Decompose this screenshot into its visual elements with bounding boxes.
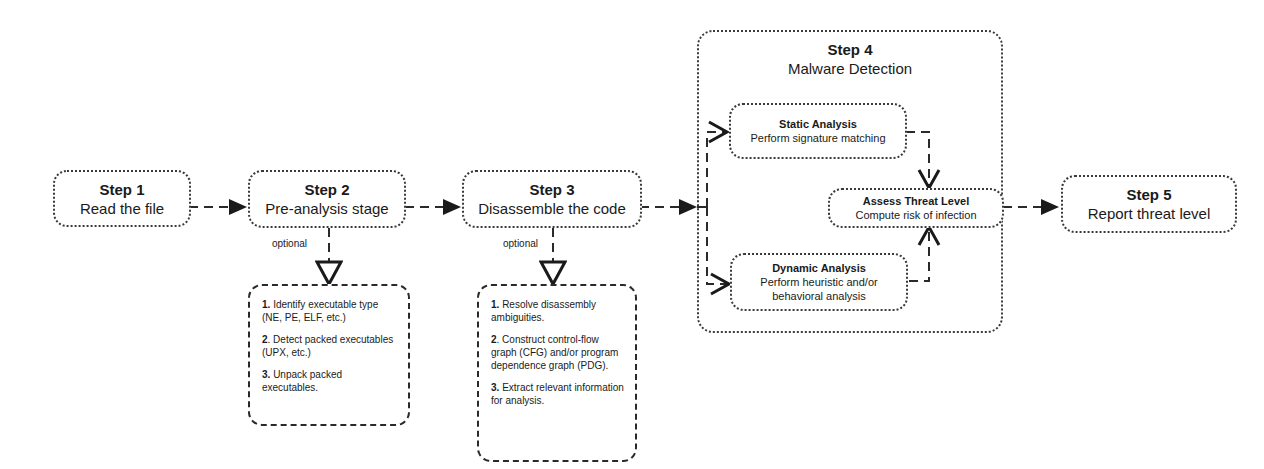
dynamic-analysis-title: Dynamic Analysis [772, 261, 866, 275]
step-2-option-3: 3. Unpack packed executables. [262, 368, 398, 394]
step-3-option-1: 1. Resolve disassembly ambiguities. [491, 298, 625, 324]
step-2-option-1: 1. Identify executable type (NE, PE, ELF… [262, 298, 398, 324]
step-5-subtitle: Report threat level [1088, 204, 1211, 223]
step-1-box: Step 1 Read the file [53, 170, 191, 227]
step-1-title: Step 1 [99, 180, 144, 199]
step-3-option-3: 3. Extract relevant information for anal… [491, 381, 625, 407]
step-4-subtitle: Malware Detection [699, 59, 1001, 78]
step-3-box: Step 3 Disassemble the code [462, 170, 642, 228]
step-3-title: Step 3 [529, 180, 574, 199]
step-3-optional-label: optional [503, 238, 538, 249]
step-2-optional-label: optional [272, 238, 307, 249]
step-2-options-box: 1. Identify executable type (NE, PE, ELF… [248, 284, 410, 426]
assess-threat-box: Assess Threat Level Compute risk of infe… [828, 188, 1004, 228]
step-4-title: Step 4 [699, 40, 1001, 59]
step-2-subtitle: Pre-analysis stage [265, 199, 388, 218]
step-5-title: Step 5 [1126, 185, 1171, 204]
assess-threat-title: Assess Threat Level [863, 194, 969, 208]
step-2-box: Step 2 Pre-analysis stage [248, 170, 406, 228]
step-3-subtitle: Disassemble the code [478, 199, 626, 218]
step-2-title: Step 2 [304, 180, 349, 199]
step-5-box: Step 5 Report threat level [1061, 175, 1237, 233]
step-3-option-2: 2. Construct control-flow graph (CFG) an… [491, 333, 625, 372]
step-3-options-box: 1. Resolve disassembly ambiguities. 2. C… [477, 284, 637, 462]
step-1-subtitle: Read the file [80, 199, 164, 218]
static-analysis-box: Static Analysis Perform signature matchi… [729, 103, 907, 159]
dynamic-analysis-box: Dynamic Analysis Perform heuristic and/o… [730, 253, 908, 311]
assess-threat-desc: Compute risk of infection [855, 208, 976, 222]
step-2-option-2: 2. Detect packed executables (UPX, etc.) [262, 333, 398, 359]
static-analysis-desc: Perform signature matching [750, 131, 885, 145]
static-analysis-title: Static Analysis [779, 117, 857, 131]
dynamic-analysis-desc-2: behavioral analysis [772, 289, 866, 303]
dynamic-analysis-desc-1: Perform heuristic and/or [760, 275, 877, 289]
